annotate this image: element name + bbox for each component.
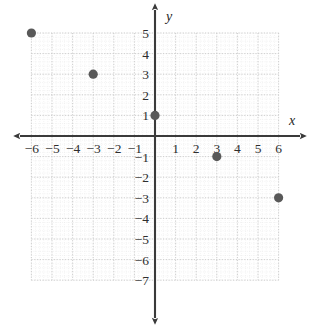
y-tick-label: −4 — [135, 211, 150, 226]
data-point — [89, 70, 98, 79]
y-tick-label: −2 — [135, 170, 149, 185]
data-point — [274, 193, 283, 202]
x-tick-label: 1 — [172, 141, 179, 156]
data-point — [212, 152, 221, 161]
x-tick-label: −6 — [25, 141, 40, 156]
x-tick-label: −4 — [66, 141, 81, 156]
y-tick-label: 2 — [142, 88, 149, 103]
x-tick-label: 4 — [234, 141, 241, 156]
y-tick-label: 3 — [142, 67, 149, 82]
y-tick-label: −1 — [135, 150, 149, 165]
y-axis-label: y — [164, 9, 173, 24]
x-tick-label: 5 — [255, 141, 262, 156]
x-axis-label: x — [288, 113, 296, 128]
y-tick-label: −6 — [135, 253, 150, 268]
y-tick-label: −7 — [135, 273, 150, 288]
data-point — [27, 28, 36, 37]
y-tick-label: 5 — [142, 26, 149, 41]
x-tick-label: 6 — [275, 141, 282, 156]
y-tick-label: 4 — [142, 47, 149, 62]
coordinate-plane-svg: x y −6−5−4−3−2−1123456 54321−1−2−3−4−5−6… — [0, 0, 309, 326]
y-tick-label: −5 — [135, 232, 150, 247]
data-point — [150, 111, 159, 120]
x-tick-label: −2 — [107, 141, 121, 156]
x-tick-label: −3 — [87, 141, 102, 156]
x-tick-label: 2 — [193, 141, 200, 156]
x-tick-label: −5 — [45, 141, 60, 156]
y-tick-label: 1 — [142, 108, 149, 123]
y-tick-label: −3 — [135, 191, 150, 206]
coordinate-plane-figure: x y −6−5−4−3−2−1123456 54321−1−2−3−4−5−6… — [0, 0, 309, 326]
